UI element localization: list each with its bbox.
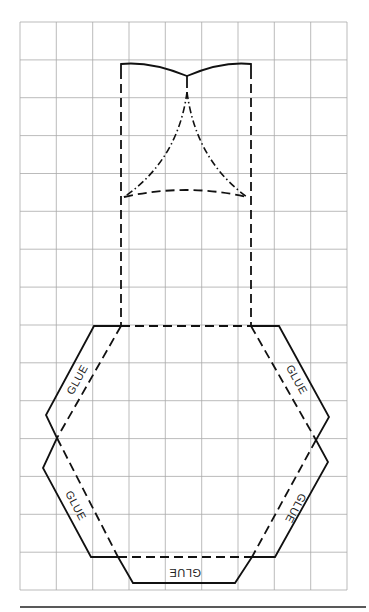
tall-panel [121,64,251,327]
triangle-left-fold [124,92,187,197]
left-flaps-cut [43,326,121,557]
triangle-base-fold [124,190,247,197]
hexagon-base: GLUE GLUE GLUE GLUE GLUE [43,326,329,583]
glue-label-top-left: GLUE [64,363,90,397]
glue-label-bottom-right: GLUE [283,492,309,526]
glue-label-bottom: GLUE [169,567,201,579]
panel-top-cut-curve [121,64,251,77]
template-canvas: GLUE GLUE GLUE GLUE GLUE [0,0,369,612]
hex-upper-left-fold [57,326,121,438]
